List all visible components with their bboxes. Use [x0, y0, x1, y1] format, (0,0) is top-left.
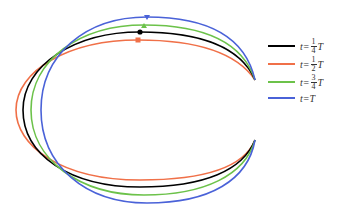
legend-line-black [268, 45, 295, 47]
label-prefix: t= [300, 77, 310, 88]
legend-item-t-full: t= T [268, 90, 340, 106]
label-suffix: T [318, 77, 324, 88]
fraction-den: 2 [312, 65, 316, 73]
legend-line-blue [268, 97, 295, 99]
legend-label: t= 34 T [300, 74, 323, 90]
legend-line-green [268, 81, 295, 83]
label-prefix: t= [300, 41, 310, 52]
legend-label: t= T [300, 90, 315, 106]
legend-item-t-quarter: t= 14 T [268, 38, 340, 54]
fraction: 12 [311, 56, 317, 73]
fraction: 34 [311, 74, 317, 91]
curve-t-half [16, 40, 255, 180]
curves-plot [0, 0, 341, 214]
legend-label: t= 12 T [300, 56, 323, 72]
label-suffix: T [318, 59, 324, 70]
fraction: 14 [311, 38, 317, 55]
legend-item-t-three-quarter: t= 34 T [268, 74, 340, 90]
legend-label: t= 14 T [300, 38, 323, 54]
fraction-den: 4 [312, 47, 316, 55]
label-suffix: T [310, 93, 316, 104]
legend-item-t-half: t= 12 T [268, 56, 340, 72]
circle-marker [137, 29, 142, 34]
label-prefix: t= [300, 93, 310, 104]
label-prefix: t= [300, 59, 310, 70]
label-suffix: T [318, 41, 324, 52]
legend-line-orange [268, 63, 295, 65]
square-marker [136, 38, 141, 43]
